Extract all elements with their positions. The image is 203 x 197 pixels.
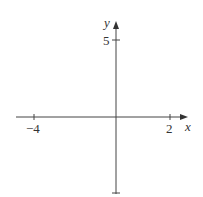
coordinate-plane: −4 2 5 x y (0, 0, 203, 197)
y-tick-label-5: 5 (103, 33, 110, 48)
y-axis-label: y (102, 15, 110, 30)
x-tick-label-2: 2 (166, 121, 173, 136)
y-axis-arrow-icon (113, 21, 119, 29)
x-axis-label: x (184, 119, 191, 134)
x-tick-label-neg4: −4 (26, 121, 40, 136)
